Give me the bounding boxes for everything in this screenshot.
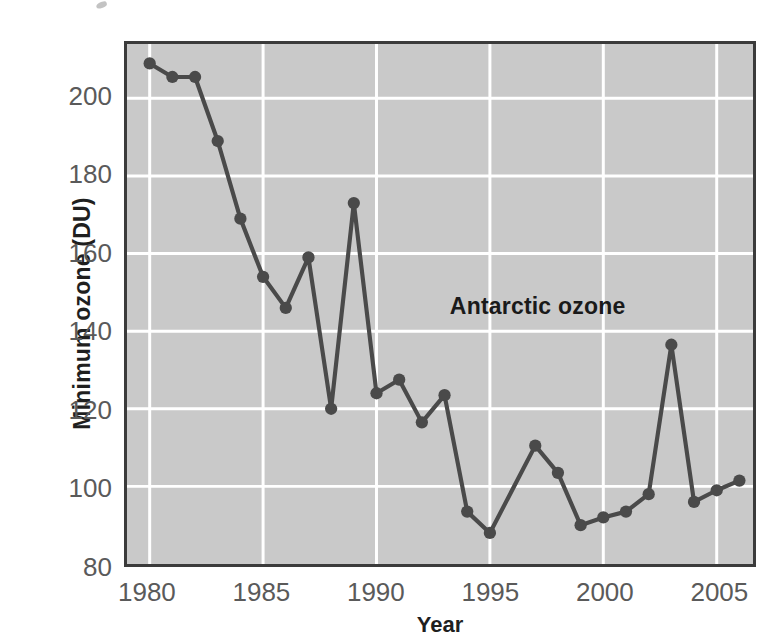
y-tick-label: 140 (30, 318, 112, 344)
x-tick-label: 1980 (118, 579, 176, 605)
ozone-chart-figure: Minimum ozone (DU) 80100120140160180200 … (0, 0, 782, 644)
data-point-marker[interactable] (189, 71, 201, 83)
data-point-marker[interactable] (733, 474, 745, 486)
x-axis-title: Year (124, 612, 756, 638)
data-point-marker[interactable] (461, 505, 473, 517)
x-tick-label: 1990 (347, 579, 405, 605)
data-point-marker[interactable] (325, 403, 337, 415)
y-axis-title: Minimum ozone (DU) (69, 154, 96, 474)
x-tick-label: 2005 (690, 579, 748, 605)
data-point-marker[interactable] (438, 389, 450, 401)
series-line (150, 63, 740, 533)
data-point-marker[interactable] (552, 467, 564, 479)
data-point-marker[interactable] (144, 57, 156, 69)
y-tick-label: 80 (30, 554, 112, 580)
data-point-marker[interactable] (665, 339, 677, 351)
data-point-marker[interactable] (574, 519, 586, 531)
x-tick-label: 1995 (461, 579, 519, 605)
data-point-marker[interactable] (688, 496, 700, 508)
y-tick-label: 200 (30, 83, 112, 109)
data-point-marker[interactable] (370, 387, 382, 399)
data-point-marker[interactable] (257, 271, 269, 283)
y-tick-label: 160 (30, 240, 112, 266)
data-point-marker[interactable] (711, 484, 723, 496)
data-point-marker[interactable] (529, 440, 541, 452)
data-point-marker[interactable] (597, 511, 609, 523)
scan-artifact-speck (95, 0, 107, 9)
data-point-marker[interactable] (484, 527, 496, 539)
data-point-marker[interactable] (302, 251, 314, 263)
data-point-marker[interactable] (234, 212, 246, 224)
x-tick-label: 2000 (576, 579, 634, 605)
data-series-layer (127, 44, 753, 564)
data-point-marker[interactable] (212, 135, 224, 147)
data-point-marker[interactable] (348, 197, 360, 209)
series-annotation-label: Antarctic ozone (450, 293, 626, 320)
data-point-marker[interactable] (620, 505, 632, 517)
data-point-marker[interactable] (643, 488, 655, 500)
data-point-marker[interactable] (280, 302, 292, 314)
y-tick-label: 180 (30, 161, 112, 187)
y-tick-label: 100 (30, 475, 112, 501)
plot-area: Antarctic ozone (124, 41, 756, 567)
data-point-marker[interactable] (166, 71, 178, 83)
data-point-marker[interactable] (416, 416, 428, 428)
data-point-marker[interactable] (393, 374, 405, 386)
y-tick-label: 120 (30, 397, 112, 423)
x-tick-label: 1985 (232, 579, 290, 605)
